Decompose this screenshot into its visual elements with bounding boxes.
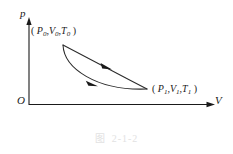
state-0-subscript-t: 0 xyxy=(67,30,71,38)
state-0-symbol-t: T xyxy=(61,25,67,36)
state-1-close-paren: ) xyxy=(194,83,197,94)
state-label-0: ( P0,V0,T0 ) xyxy=(31,26,76,36)
y-axis-arrowhead xyxy=(26,17,31,25)
state-0-subscript-p: 0 xyxy=(43,30,47,38)
state-0-close-paren: ) xyxy=(73,25,76,36)
cycle-loop-group xyxy=(63,45,147,89)
state-1-subscript-v: 1 xyxy=(176,88,180,96)
figure-caption: 图2-1-2 xyxy=(0,130,233,145)
origin-label: O xyxy=(17,95,25,106)
figure-caption-number: 2-1-2 xyxy=(112,133,139,144)
state-label-1: ( P1,V1,T1 ) xyxy=(152,84,197,94)
state-0-open-paren: ( xyxy=(31,25,34,36)
state-0-subscript-v: 0 xyxy=(55,30,59,38)
figure-caption-prefix: 图 xyxy=(95,133,106,144)
x-axis-label: V xyxy=(215,95,222,106)
state-1-open-paren: ( xyxy=(152,83,155,94)
state-1-symbol-t: T xyxy=(182,83,188,94)
cycle-direction-arrow-upper xyxy=(101,63,112,70)
state-1-subscript-t: 1 xyxy=(188,88,192,96)
x-axis-arrowhead xyxy=(207,102,216,107)
y-axis-label: p xyxy=(20,8,26,19)
state-1-subscript-p: 1 xyxy=(164,88,168,96)
pv-diagram-figure: p V O ( P0,V0,T0 ) ( P1,V1,T1 ) 图2-1-2 xyxy=(0,0,233,154)
